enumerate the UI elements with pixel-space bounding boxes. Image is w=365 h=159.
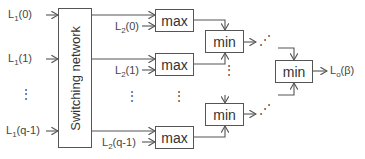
ellipsis-diag-bottom: ⋰: [259, 102, 271, 116]
l2-label-1: L2(1): [115, 64, 139, 79]
ellipsis-max: ⋮: [173, 94, 177, 99]
min-block-top: min: [205, 30, 244, 53]
max-block-0: max: [155, 9, 194, 32]
input-label-1: L1(1): [8, 52, 32, 67]
input-label-last: L1(q-1): [6, 124, 40, 139]
max-block-1: max: [155, 53, 194, 76]
ellipsis-min: ⋮: [223, 68, 227, 73]
switching-network-block: Switching network: [58, 8, 92, 148]
ellipsis-diag-top: ⋰: [259, 33, 271, 47]
input-label-0: L1(0): [8, 8, 32, 23]
min-block-bottom: min: [205, 103, 244, 126]
max-block-last: max: [155, 126, 194, 149]
switching-network-label: Switching network: [68, 26, 83, 131]
output-label: Lo(β): [330, 64, 354, 79]
ellipsis-l2: ⋮: [126, 94, 130, 99]
ellipsis-inputs: ⋮: [20, 92, 24, 97]
l2-label-last: L2(q-1): [102, 136, 136, 151]
min-block-final: min: [275, 60, 313, 83]
l2-label-0: L2(0): [115, 20, 139, 35]
